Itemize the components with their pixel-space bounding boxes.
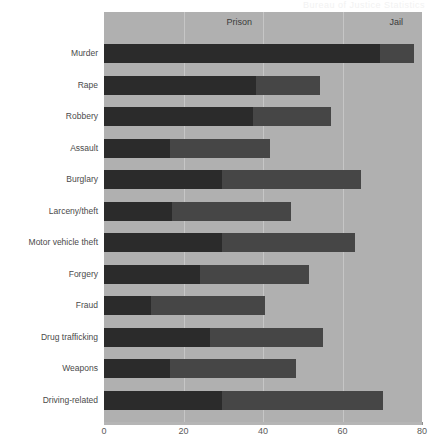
bar-segment-prison xyxy=(104,139,170,158)
y-axis-label: Driving-related xyxy=(0,391,98,410)
bar-row xyxy=(104,359,422,378)
x-tick-label: 60 xyxy=(337,426,347,436)
y-axis-label: Burglary xyxy=(0,170,98,189)
bar-row xyxy=(104,139,422,158)
y-axis-label: Larceny/theft xyxy=(0,202,98,221)
bar-segment-prison xyxy=(104,328,210,347)
bar-segment-prison xyxy=(104,44,380,63)
x-tick-mark xyxy=(422,422,423,425)
y-axis-label: Murder xyxy=(0,44,98,63)
bar-segment-prison xyxy=(104,107,253,126)
x-tick-label: 20 xyxy=(178,426,188,436)
y-axis-label: Motor vehicle theft xyxy=(0,233,98,252)
bar-segment-jail xyxy=(222,233,355,252)
x-tick-label: 80 xyxy=(417,426,427,436)
x-tick-label: 0 xyxy=(101,426,106,436)
bar-segment-jail xyxy=(151,296,265,315)
bar-row xyxy=(104,296,422,315)
bar-segment-jail xyxy=(253,107,331,126)
y-axis-label: Forgery xyxy=(0,265,98,284)
bar-segment-prison xyxy=(104,359,170,378)
x-tick-label: 40 xyxy=(258,426,268,436)
watermark-text: Bureau of Justice Statistics xyxy=(303,0,425,10)
bar-row xyxy=(104,202,422,221)
bar-segment-prison xyxy=(104,76,256,95)
bar-segment-prison xyxy=(104,391,222,410)
bar-segment-jail xyxy=(170,359,296,378)
y-axis-label: Rape xyxy=(0,76,98,95)
bar-row xyxy=(104,233,422,252)
x-axis-line xyxy=(104,422,422,425)
y-axis-label: Robbery xyxy=(0,107,98,126)
bar-segment-prison xyxy=(104,202,172,221)
bar-row xyxy=(104,170,422,189)
y-axis-label: Fraud xyxy=(0,296,98,315)
bar-row xyxy=(104,76,422,95)
bar-segment-jail xyxy=(380,44,414,63)
bar-segment-jail xyxy=(200,265,309,284)
bar-segment-prison xyxy=(104,265,200,284)
bar-row xyxy=(104,44,422,63)
bar-row xyxy=(104,328,422,347)
y-axis-label: Drug trafficking xyxy=(0,328,98,347)
bar-row xyxy=(104,107,422,126)
bar-segment-prison xyxy=(104,296,151,315)
bar-row xyxy=(104,391,422,410)
bar-segment-prison xyxy=(104,233,222,252)
bar-segment-jail xyxy=(210,328,323,347)
bar-row xyxy=(104,265,422,284)
bar-segment-jail xyxy=(222,391,383,410)
legend-label-jail: Jail xyxy=(389,17,403,27)
bar-segment-jail xyxy=(170,139,270,158)
bar-segment-jail xyxy=(256,76,320,95)
bar-segment-jail xyxy=(222,170,361,189)
bar-segment-prison xyxy=(104,170,222,189)
y-axis-label: Weapons xyxy=(0,359,98,378)
stacked-bar-chart: Bureau of Justice Statistics PrisonJail … xyxy=(0,0,441,446)
bar-segment-jail xyxy=(172,202,291,221)
plot-panel: PrisonJail xyxy=(104,12,422,422)
legend-label-prison: Prison xyxy=(226,17,252,27)
y-axis-label: Assault xyxy=(0,139,98,158)
